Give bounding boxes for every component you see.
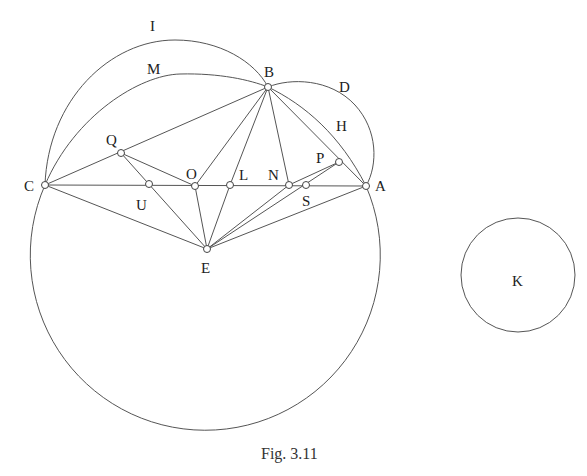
label-U: U (136, 197, 147, 213)
segment-NP (289, 162, 339, 185)
segment-BO (195, 87, 268, 186)
label-P: P (316, 150, 324, 166)
label-L: L (239, 167, 248, 183)
segment-QO (121, 153, 195, 186)
label-A: A (375, 178, 386, 194)
point-E (204, 246, 211, 253)
segment-CA (45, 185, 366, 186)
label-E: E (201, 260, 210, 276)
main-circle-lower-arc (30, 185, 380, 430)
geometry-figure: I M B D H Q P C O L N A U S E K Fig. 3.1… (0, 0, 587, 476)
point-U (146, 181, 153, 188)
segment-EO (195, 186, 207, 249)
label-K: K (512, 273, 523, 289)
point-P (336, 159, 343, 166)
segment-CB (45, 87, 268, 185)
label-O: O (186, 166, 197, 182)
point-S (303, 182, 310, 189)
point-L (227, 182, 234, 189)
label-D: D (339, 79, 350, 95)
segments (45, 87, 366, 249)
label-H: H (336, 118, 347, 134)
point-B (265, 84, 272, 91)
segment-EA (207, 186, 366, 249)
point-C (42, 182, 49, 189)
label-Q: Q (106, 132, 117, 148)
label-M: M (147, 61, 160, 77)
point-A (363, 183, 370, 190)
label-S: S (302, 193, 310, 209)
label-N: N (268, 167, 279, 183)
labels: I M B D H Q P C O L N A U S E K (24, 18, 523, 289)
segment-EN (207, 185, 289, 249)
point-N (286, 182, 293, 189)
label-I: I (150, 18, 155, 34)
point-Q (118, 150, 125, 157)
label-C: C (24, 178, 34, 194)
point-markers (42, 84, 370, 253)
label-B: B (264, 64, 274, 80)
point-O (192, 183, 199, 190)
segment-CE (45, 185, 207, 249)
figure-caption: Fig. 3.11 (261, 445, 318, 463)
